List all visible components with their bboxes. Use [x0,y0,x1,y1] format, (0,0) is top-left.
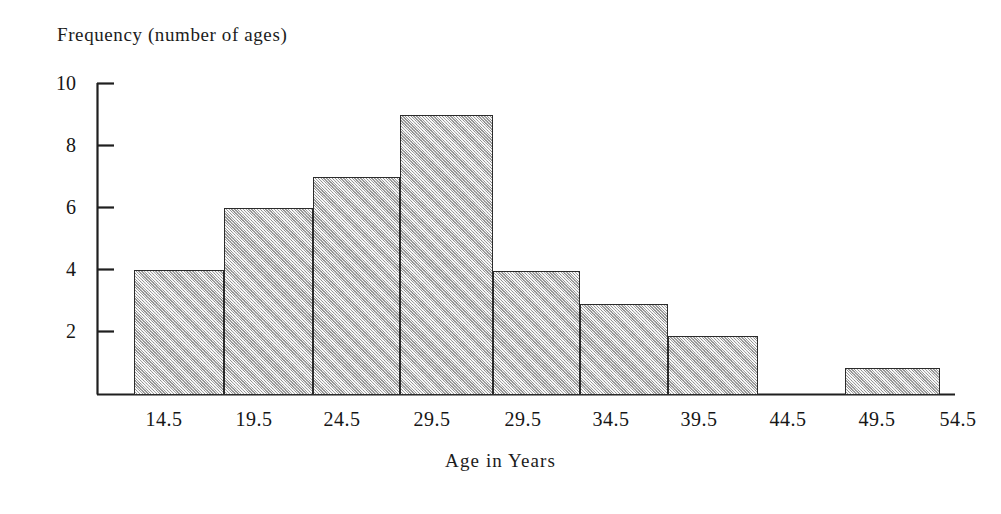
x-tick-label-9: 49.5 [832,408,922,430]
bar-bin-5 [493,271,580,395]
x-tick-label-5: 29.5 [478,408,568,430]
bar-bin-6 [580,304,668,395]
y-tick-label-8: 8 [42,135,76,155]
bar-bin-1 [134,270,224,395]
x-tick-label-1: 14.5 [119,408,209,430]
y-tick-label-6: 6 [42,197,76,217]
bar-bin-9 [845,368,940,395]
x-tick-label-8: 44.5 [743,408,833,430]
histogram-figure: Frequency (number of ages) 10 8 6 4 2 [0,0,1001,514]
y-tick-label-2: 2 [42,321,76,341]
plot-area: 10 8 6 4 2 14.5 19.5 24.5 29.5 29.5 34.5… [0,0,1001,514]
x-axis-title: Age in Years [0,450,1001,472]
y-tick-label-10: 10 [42,73,76,93]
x-tick-label-7: 39.5 [654,408,744,430]
x-tick-label-3: 24.5 [297,408,387,430]
y-tick-label-4: 4 [42,259,76,279]
x-tick-label-2: 19.5 [209,408,299,430]
x-tick-label-6: 34.5 [566,408,656,430]
bar-bin-7 [668,336,758,395]
x-tick-label-4: 29.5 [387,408,477,430]
bar-bin-2 [224,208,313,395]
axis-lines [0,0,1001,514]
bar-bin-4 [400,115,493,395]
bar-bin-3 [313,177,400,395]
x-tick-label-10: 54.5 [913,408,1001,430]
